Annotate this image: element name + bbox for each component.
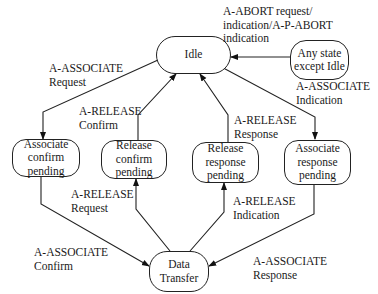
edge-release-response (200, 74, 228, 142)
label-associate-request: A-ASSOCIATE Request (49, 62, 123, 89)
node-associate-response-pending: Associate response pending (284, 140, 351, 185)
edge-release-indication (190, 183, 224, 251)
label-release-confirm: A-RELEASE Confirm (79, 105, 142, 132)
edge-release-confirm (138, 74, 176, 140)
node-associate-confirm-pending: Associate confirm pending (12, 139, 80, 177)
label-abort: A-ABORT request/ indication/A-P-ABORT in… (223, 5, 333, 46)
node-data-transfer: Data Transfer (149, 251, 209, 292)
node-any-state-except-idle: Any state except Idle (290, 40, 349, 80)
node-idle: Idle (156, 36, 231, 74)
label-release-request: A-RELEASE Request (71, 188, 134, 215)
label-associate-confirm: A-ASSOCIATE Confirm (34, 246, 108, 273)
edge-release-request (136, 179, 170, 251)
label-release-indication: A-RELEASE Indication (233, 195, 296, 222)
node-release-response-pending: Release response pending (192, 142, 259, 183)
label-associate-indication: A-ASSOCIATE Indication (296, 80, 370, 107)
node-release-confirm-pending: Release confirm pending (101, 140, 167, 179)
label-release-response: A-RELEASE Response (234, 114, 297, 141)
label-associate-response: A-ASSOCIATE Response (253, 255, 327, 282)
